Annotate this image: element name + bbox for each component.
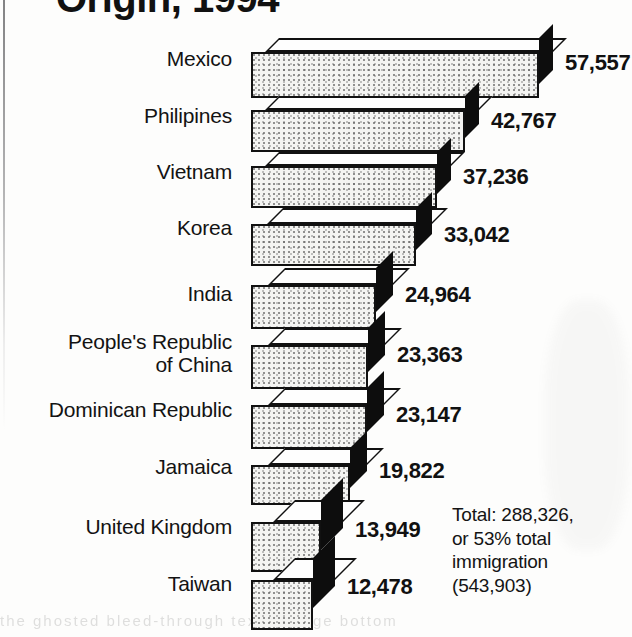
bar-side-face	[539, 24, 553, 84]
category-label: Jamaica	[155, 455, 232, 478]
bar-value-label: 23,363	[397, 342, 463, 368]
category-label: Korea	[177, 216, 232, 239]
total-annotation-line: or 53% total	[452, 527, 632, 551]
category-label: Dominican Republic	[49, 398, 232, 421]
category-label: People's Republic of China	[68, 330, 232, 376]
bar-front-face	[251, 285, 376, 329]
bar-front-face	[251, 166, 437, 208]
bar-front-face	[251, 52, 539, 98]
bar-top-face	[273, 500, 365, 522]
category-label: Philipines	[144, 104, 232, 127]
category-label: Vietnam	[157, 160, 232, 183]
bar-front-face	[251, 580, 313, 630]
bar-3d	[251, 152, 451, 208]
category-label: Taiwan	[168, 572, 232, 595]
bar-value-label: 42,767	[491, 108, 557, 134]
bar-3d	[251, 448, 367, 505]
bar-3d	[251, 558, 335, 630]
bar-value-label: 13,949	[355, 517, 421, 543]
bar-top-face	[265, 96, 493, 110]
bar-3d	[251, 268, 393, 329]
bar-front-face	[251, 110, 465, 152]
bar-front-face	[251, 405, 367, 449]
bar-value-label: 33,042	[444, 222, 510, 248]
category-label: India	[187, 282, 232, 305]
total-annotation: Total: 288,326,or 53% totalimmigration(5…	[452, 503, 632, 597]
bar-value-label: 19,822	[379, 458, 445, 484]
bar-value-label: 57,557	[565, 50, 631, 76]
bar-value-label: 24,964	[405, 282, 471, 308]
bar-top-face	[265, 152, 465, 166]
bar-3d	[251, 328, 385, 389]
bar-value-label: 12,478	[347, 574, 413, 600]
bar-3d	[251, 38, 553, 98]
total-annotation-line: Total: 288,326,	[452, 503, 632, 527]
bar-value-label: 23,147	[396, 402, 462, 428]
total-annotation-line: immigration	[452, 550, 632, 574]
total-annotation-line: (543,903)	[452, 574, 632, 598]
bar-3d	[251, 208, 432, 266]
bar-front-face	[251, 345, 368, 389]
bar-value-label: 37,236	[463, 164, 529, 190]
bar-top-face	[265, 38, 567, 52]
category-label: Mexico	[167, 47, 232, 70]
category-label: United Kingdom	[85, 515, 232, 538]
